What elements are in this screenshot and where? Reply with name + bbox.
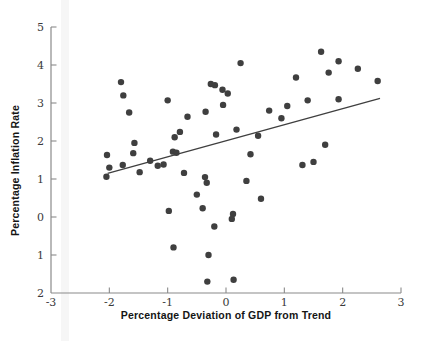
data-point <box>170 244 176 250</box>
data-point <box>374 78 380 84</box>
data-point <box>299 162 305 168</box>
data-point <box>118 79 124 85</box>
data-point <box>237 60 243 66</box>
data-point <box>199 205 205 211</box>
y-tick-label: 4 <box>37 59 44 72</box>
data-point <box>335 96 341 102</box>
data-point <box>160 161 166 167</box>
data-point <box>181 170 187 176</box>
x-tick-label: -3 <box>46 296 57 309</box>
data-point <box>130 150 136 156</box>
data-point <box>322 142 328 148</box>
data-point <box>166 208 172 214</box>
data-point <box>184 113 190 119</box>
data-point <box>204 278 210 284</box>
inflation-gdp-scatter-figure: -3-2-1012354321012 Percentage Inflation … <box>0 0 429 341</box>
x-tick-label: -1 <box>162 296 173 309</box>
data-point <box>205 252 211 258</box>
x-tick-label: 1 <box>281 296 288 309</box>
data-point <box>233 126 239 132</box>
x-tick-label: -2 <box>104 296 115 309</box>
data-point <box>213 131 219 137</box>
data-point <box>293 74 299 80</box>
x-tick-label: 0 <box>223 296 230 309</box>
data-point <box>177 129 183 135</box>
data-point <box>136 169 142 175</box>
data-point <box>194 191 200 197</box>
data-point <box>258 196 264 202</box>
data-point <box>202 109 208 115</box>
data-point <box>278 115 284 121</box>
data-point <box>211 223 217 229</box>
data-point <box>247 151 253 157</box>
y-tick-label: 0 <box>37 211 44 224</box>
data-point <box>304 97 310 103</box>
data-point <box>204 180 210 186</box>
data-point <box>310 159 316 165</box>
data-point <box>126 109 132 115</box>
y-tick-label: 2 <box>37 287 44 300</box>
y-axis-title: Percentage Inflation Rate <box>9 0 21 341</box>
data-point <box>318 49 324 55</box>
data-point <box>106 164 112 170</box>
data-point <box>255 132 261 138</box>
data-point <box>173 150 179 156</box>
data-point <box>155 163 161 169</box>
data-point <box>219 87 225 93</box>
data-point <box>243 178 249 184</box>
y-tick-label: 2 <box>37 135 44 148</box>
data-point <box>131 140 137 146</box>
y-tick-label: 3 <box>37 97 44 110</box>
data-point <box>104 152 110 158</box>
data-point <box>335 58 341 64</box>
data-point <box>212 82 218 88</box>
x-axis-title: Percentage Deviation of GDP from Trend <box>51 309 401 321</box>
data-point <box>120 92 126 98</box>
data-point <box>229 216 235 222</box>
data-point <box>355 66 361 72</box>
x-tick-label: 2 <box>339 296 346 309</box>
data-point <box>171 134 177 140</box>
x-tick-label: 3 <box>398 296 405 309</box>
y-tick-label: 1 <box>37 173 44 186</box>
data-point <box>284 103 290 109</box>
data-point <box>230 277 236 283</box>
data-point <box>164 97 170 103</box>
y-tick-label: 5 <box>37 21 44 34</box>
data-point <box>103 174 109 180</box>
y-tick-label: 1 <box>37 249 44 262</box>
data-point <box>325 69 331 75</box>
data-point <box>202 174 208 180</box>
scatter-chart: -3-2-1012354321012 <box>0 0 429 341</box>
data-point <box>147 158 153 164</box>
data-point <box>225 90 231 96</box>
data-point <box>220 102 226 108</box>
data-point <box>120 162 126 168</box>
data-point <box>266 107 272 113</box>
